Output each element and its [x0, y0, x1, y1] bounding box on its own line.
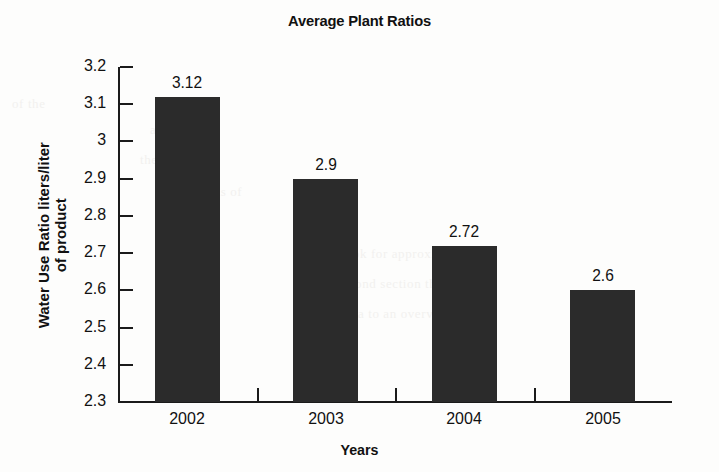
- x-axis-tick: [534, 388, 536, 401]
- x-axis-title: Years: [18, 441, 701, 458]
- y-axis-tick: [120, 215, 133, 217]
- y-axis-tick: [120, 364, 133, 366]
- y-axis-tick: [120, 327, 133, 329]
- x-axis-tick: [257, 388, 259, 401]
- x-axis-category-label: 2005: [561, 409, 646, 429]
- y-axis-tick: [120, 178, 133, 180]
- bar-value-label: 3.12: [145, 73, 230, 92]
- y-axis-tick: [120, 140, 133, 142]
- y-axis-tick: [120, 289, 133, 291]
- x-axis-category-label: 2004: [422, 409, 507, 429]
- y-axis-tick: [120, 103, 133, 105]
- y-axis-title-line2: of product: [52, 55, 69, 415]
- y-axis-tick: [120, 252, 133, 254]
- bar: [432, 246, 497, 402]
- bar: [293, 179, 358, 402]
- chart-title: Average Plant Ratios: [18, 12, 701, 30]
- bar-value-label: 2.6: [561, 266, 646, 285]
- bar: [155, 97, 220, 402]
- chart-figure: of the a study the lines of in the areas…: [0, 0, 719, 472]
- y-axis-tick: [120, 66, 133, 68]
- x-axis-category-label: 2003: [284, 409, 369, 429]
- y-axis-title: Water Use Ratio liters/liter of product: [35, 55, 70, 415]
- plot-area: 3.23.132.92.82.72.62.52.42.3 3.122.92.72…: [0, 0, 719, 472]
- y-axis-title-line1: Water Use Ratio liters/liter: [35, 142, 52, 328]
- y-axis-tick: [120, 401, 133, 403]
- y-axis-spine: [118, 67, 120, 403]
- bar-value-label: 2.9: [284, 155, 369, 174]
- bar: [570, 290, 635, 402]
- x-axis-tick: [395, 388, 397, 401]
- x-axis-category-label: 2002: [145, 409, 230, 429]
- bar-value-label: 2.72: [422, 222, 507, 241]
